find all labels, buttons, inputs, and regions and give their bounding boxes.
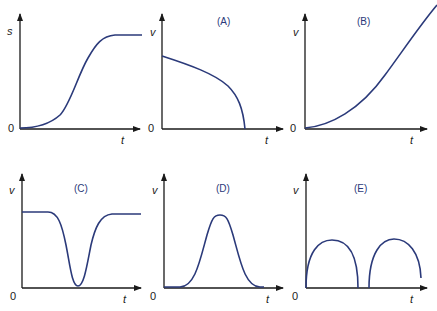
- panel-a: [162, 14, 283, 129]
- x-label: t: [123, 293, 126, 305]
- origin-label: 0: [292, 290, 298, 302]
- graphs-canvas: [0, 0, 437, 311]
- y-label: v: [152, 184, 158, 196]
- arches-curve: [306, 240, 358, 288]
- origin-label: 0: [290, 122, 296, 134]
- origin-label: 0: [150, 290, 156, 302]
- origin-label: 0: [148, 122, 154, 134]
- arches-curve-2: [369, 239, 421, 288]
- panel-s-t: [20, 14, 142, 129]
- y-label: v: [293, 184, 299, 196]
- y-label: v: [150, 26, 156, 38]
- y-label: v: [293, 26, 299, 38]
- x-label: t: [121, 134, 124, 146]
- panel-title: (D): [216, 183, 230, 194]
- increasing-curve: [305, 5, 437, 128]
- panel-title: (E): [354, 183, 367, 194]
- origin-label: 0: [10, 290, 16, 302]
- y-label: v: [9, 184, 15, 196]
- panel-title: (B): [357, 16, 370, 27]
- y-label: s: [7, 25, 13, 37]
- peak-curve: [164, 215, 264, 287]
- x-label: t: [266, 293, 269, 305]
- x-label: t: [410, 293, 413, 305]
- panel-b: [305, 5, 437, 129]
- origin-label: 0: [8, 122, 14, 134]
- decreasing-curve: [162, 56, 245, 129]
- panel-title: (C): [74, 183, 88, 194]
- panel-title: (A): [217, 16, 230, 27]
- dip-curve: [22, 212, 141, 286]
- x-label: t: [265, 134, 268, 146]
- sigmoid-curve: [20, 35, 142, 128]
- x-label: t: [410, 134, 413, 146]
